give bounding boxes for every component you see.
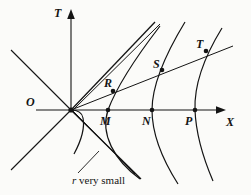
r-very-small-annotation: r very small: [72, 175, 125, 186]
point-dot-o: [68, 107, 73, 112]
spacetime-figure: T X O R S T M N P r very small: [0, 0, 251, 195]
point-dot-n: [150, 108, 155, 113]
x-axis-arrowhead: [216, 106, 226, 114]
light-cone-upper-right-steep-ray-b: [72, 24, 160, 111]
figure-canvas: [0, 0, 251, 195]
point-dot-m: [106, 108, 111, 113]
point-dot-p: [193, 108, 198, 113]
point-label-s: S: [153, 58, 160, 70]
light-cone-upper-left-ray: [11, 50, 71, 110]
worldline-through-rst: [71, 46, 233, 110]
annotation-leader-line: [78, 151, 99, 173]
light-cone-upper-right-steep-ray: [71, 22, 155, 110]
x-axis-label: X: [226, 116, 234, 128]
point-label-n: N: [142, 115, 151, 127]
point-label-t: T: [196, 38, 203, 50]
point-label-r: R: [104, 77, 112, 89]
t-axis-arrowhead: [67, 9, 75, 19]
point-label-p: P: [185, 115, 192, 127]
origin-label: O: [26, 96, 35, 108]
annotation-text: very small: [76, 174, 125, 186]
point-label-m: M: [100, 115, 111, 127]
light-cone-lower-left-ray: [11, 110, 71, 170]
point-dot-s: [160, 68, 165, 73]
t-axis-label: T: [54, 7, 61, 19]
hyperbola-through-n: [152, 22, 185, 184]
point-dot-t: [204, 49, 209, 54]
